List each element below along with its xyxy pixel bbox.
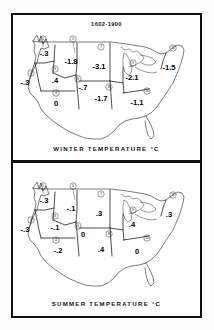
svg-text:9: 9 — [132, 61, 134, 65]
figure-panel: 1602-1900 — [0, 0, 214, 330]
summer-value-4: -.2 — [54, 246, 63, 255]
svg-text:2: 2 — [30, 218, 32, 222]
summer-map-panel: 1 2 3 4 5 6 7 8 9 10 11 — [13, 166, 200, 316]
summer-value-6: 0 — [81, 230, 85, 239]
summer-value-5: -.1 — [67, 204, 77, 213]
svg-text:2: 2 — [30, 71, 32, 75]
summer-value-1: -.3 — [40, 196, 49, 205]
winter-value-5: -1.8 — [64, 57, 77, 66]
summer-map-caption: SUMMER TEMPERATURE °C — [13, 300, 200, 307]
summer-value-8: .4 — [98, 245, 105, 254]
svg-text:10: 10 — [145, 89, 149, 93]
winter-value-8: -1.7 — [94, 94, 107, 103]
svg-text:5: 5 — [72, 184, 74, 188]
summer-value-11: .3 — [166, 210, 172, 219]
winter-value-2: -.3 — [21, 78, 30, 87]
svg-text:6: 6 — [77, 224, 79, 228]
svg-text:8: 8 — [108, 85, 110, 89]
svg-text:4: 4 — [55, 91, 57, 95]
panel-divider — [11, 160, 202, 163]
svg-text:9: 9 — [132, 208, 134, 212]
winter-value-7: -3.1 — [92, 62, 106, 71]
summer-value-2: -.3 — [21, 225, 30, 234]
svg-text:7: 7 — [100, 45, 102, 49]
svg-text:5: 5 — [72, 37, 74, 41]
winter-value-11: -1.5 — [162, 63, 176, 72]
svg-text:8: 8 — [108, 232, 110, 236]
svg-text:4: 4 — [55, 238, 57, 242]
svg-text:1: 1 — [42, 37, 44, 41]
svg-text:3: 3 — [54, 67, 56, 71]
svg-text:3: 3 — [54, 214, 56, 218]
winter-map-caption: WINTER TEMPERATURE °C — [13, 145, 200, 152]
svg-text:6: 6 — [77, 77, 79, 81]
svg-text:11: 11 — [171, 193, 175, 197]
summer-value-7: .3 — [96, 209, 102, 218]
summer-value-3: -.1 — [51, 223, 61, 232]
winter-value-10: -1.1 — [130, 98, 144, 107]
winter-map-panel: 1602-1900 — [13, 15, 200, 160]
winter-value-4: 0 — [54, 99, 58, 108]
summer-value-10: 0 — [135, 247, 139, 256]
winter-value-1: -.3 — [40, 49, 49, 58]
winter-value-9: -2.1 — [125, 73, 139, 82]
winter-value-6: -.7 — [79, 83, 88, 92]
svg-text:11: 11 — [171, 46, 175, 50]
svg-text:7: 7 — [100, 192, 102, 196]
summer-value-9: .4 — [129, 220, 136, 229]
winter-value-3: .4 — [52, 76, 59, 85]
winter-us-map: 1 2 3 4 5 6 7 8 9 10 11 — [13, 23, 199, 155]
svg-text:10: 10 — [145, 236, 149, 240]
summer-us-map: 1 2 3 4 5 6 7 8 9 10 11 — [13, 170, 199, 302]
svg-text:1: 1 — [42, 184, 44, 188]
